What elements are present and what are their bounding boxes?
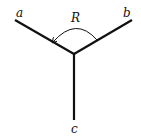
label-b: b (123, 6, 131, 20)
diagram-canvas: a b c R (0, 0, 141, 138)
ray-b (74, 20, 132, 54)
label-R: R (70, 11, 80, 25)
label-c: c (71, 122, 78, 136)
label-a: a (16, 6, 23, 20)
rotation-arc (53, 28, 97, 42)
ray-a (15, 20, 74, 54)
